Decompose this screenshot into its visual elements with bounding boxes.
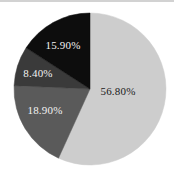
pie-slice-group bbox=[14, 13, 166, 165]
pie-chart-figure: 56.80%18.90%8.40%15.90% bbox=[0, 0, 174, 178]
pie-chart-canvas bbox=[0, 0, 174, 178]
